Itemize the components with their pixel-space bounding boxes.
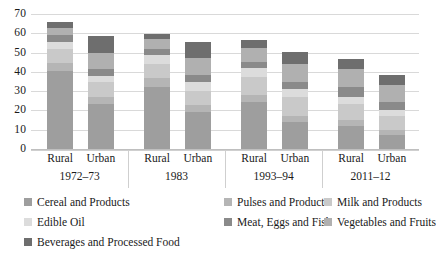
bar-segment[interactable]: [338, 126, 364, 149]
y-axis-tick-label: 20: [0, 105, 26, 117]
bar-segment[interactable]: [282, 64, 308, 83]
bar-stack[interactable]: [185, 42, 211, 149]
bar-stack[interactable]: [282, 52, 308, 149]
group-separator: [225, 150, 226, 188]
legend-swatch-icon: [24, 218, 32, 226]
bar-segment[interactable]: [241, 68, 267, 76]
bar-stack[interactable]: [379, 75, 405, 149]
bar-segment[interactable]: [241, 102, 267, 149]
bar-segment[interactable]: [144, 64, 170, 78]
bar-segment[interactable]: [185, 58, 211, 75]
x-axis-group-label: 1972–73: [30, 170, 130, 183]
bar-segment[interactable]: [282, 122, 308, 149]
bar-segment[interactable]: [47, 49, 73, 63]
bar-stack[interactable]: [338, 59, 364, 149]
bar-segment[interactable]: [185, 82, 211, 91]
group-separator: [128, 150, 129, 188]
bar-segment[interactable]: [88, 36, 114, 52]
bar-segment[interactable]: [338, 69, 364, 87]
y-axis-tick-label: 50: [0, 47, 26, 59]
bar-segment[interactable]: [88, 104, 114, 149]
legend-item-label: Beverages and Processed Food: [37, 236, 180, 249]
legend-swatch-icon: [224, 218, 232, 226]
chart-legend: Cereal and ProductsPulses and ProductsMi…: [24, 196, 416, 256]
legend-item[interactable]: Beverages and Processed Food: [24, 236, 180, 249]
bar-segment[interactable]: [282, 52, 308, 64]
bar-segment[interactable]: [47, 71, 73, 149]
bar-stack[interactable]: [88, 36, 114, 149]
x-axis-group-label: 2011–12: [321, 170, 421, 183]
y-axis-tick-label: 10: [0, 124, 26, 136]
bar-segment[interactable]: [241, 77, 267, 95]
y-axis-tick-label: 60: [0, 28, 26, 40]
legend-swatch-icon: [324, 198, 332, 206]
bar-segment[interactable]: [379, 116, 405, 130]
bar-segment[interactable]: [144, 39, 170, 49]
bar-segment[interactable]: [282, 97, 308, 116]
bar-stack[interactable]: [47, 22, 73, 149]
bar-segment[interactable]: [338, 59, 364, 69]
x-axis-category-label: Urban: [366, 152, 418, 165]
y-axis-tick-label: 30: [0, 85, 26, 97]
bar-segment[interactable]: [144, 87, 170, 149]
legend-item[interactable]: Meat, Eggs and Fish: [224, 216, 332, 229]
bar-segment[interactable]: [144, 78, 170, 86]
legend-item[interactable]: Pulses and Products: [224, 196, 329, 209]
bar-segment[interactable]: [144, 55, 170, 64]
bar-segment[interactable]: [241, 48, 267, 62]
bar-segment[interactable]: [379, 102, 405, 110]
bar-segment[interactable]: [185, 112, 211, 149]
legend-item-label: Edible Oil: [37, 216, 85, 229]
bar-segment[interactable]: [47, 42, 73, 49]
x-axis-labels: RuralUrbanRuralUrbanRuralUrbanRuralUrban…: [31, 150, 419, 190]
x-axis-category-label: Urban: [269, 152, 321, 165]
legend-swatch-icon: [324, 218, 332, 226]
y-axis-tick-label: 40: [0, 66, 26, 78]
bar-segment[interactable]: [241, 40, 267, 48]
x-axis-group-label: 1983: [127, 170, 227, 183]
bar-segment[interactable]: [338, 87, 364, 97]
bar-stack[interactable]: [144, 34, 170, 149]
legend-swatch-icon: [224, 198, 232, 206]
legend-item[interactable]: Edible Oil: [24, 216, 85, 229]
legend-item-label: Vegetables and Fruits: [337, 216, 436, 229]
bar-segment[interactable]: [47, 63, 73, 71]
legend-swatch-icon: [24, 198, 32, 206]
legend-item-label: Meat, Eggs and Fish: [237, 216, 332, 229]
bar-segment[interactable]: [88, 97, 114, 104]
group-separator: [322, 150, 323, 188]
y-axis: 010203040506070: [0, 0, 30, 190]
x-axis-group-label: 1993–94: [224, 170, 324, 183]
legend-item-label: Pulses and Products: [237, 196, 329, 209]
x-axis-category-label: Urban: [172, 152, 224, 165]
bar-segment[interactable]: [185, 91, 211, 105]
bar-segment[interactable]: [379, 75, 405, 85]
legend-item[interactable]: Milk and Products: [324, 196, 422, 209]
bar-segment[interactable]: [379, 85, 405, 102]
x-axis-category-label: Urban: [75, 152, 127, 165]
legend-item[interactable]: Vegetables and Fruits: [324, 216, 436, 229]
legend-item[interactable]: Cereal and Products: [24, 196, 130, 209]
bar-segment[interactable]: [379, 135, 405, 149]
y-axis-tick-label: 0: [0, 143, 26, 155]
bar-segment[interactable]: [185, 42, 211, 58]
bar-segment[interactable]: [282, 89, 308, 97]
bar-segment[interactable]: [88, 82, 114, 97]
y-axis-tick-label: 70: [0, 8, 26, 20]
bar-segment[interactable]: [47, 28, 73, 36]
legend-swatch-icon: [24, 238, 32, 246]
bar-segment[interactable]: [338, 104, 364, 119]
bar-segment[interactable]: [88, 53, 114, 70]
legend-item-label: Cereal and Products: [37, 196, 130, 209]
legend-item-label: Milk and Products: [337, 196, 422, 209]
bar-stack[interactable]: [241, 40, 267, 149]
bar-segment[interactable]: [241, 95, 267, 102]
bar-segment[interactable]: [338, 97, 364, 104]
